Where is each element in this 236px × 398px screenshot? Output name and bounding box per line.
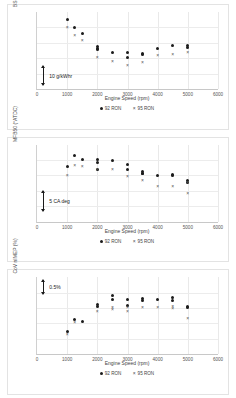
arrow-up-icon [41, 190, 45, 193]
data-point-92ron [171, 299, 174, 302]
x-axis-label: Engine Speed (rpm) [36, 95, 218, 101]
data-point-95ron [156, 54, 159, 57]
data-point-95ron [126, 64, 129, 67]
gridline-vertical [67, 277, 68, 354]
gridline-vertical [97, 145, 98, 222]
arrow-down-icon [41, 292, 45, 295]
data-point-95ron [66, 26, 69, 29]
data-point-95ron [156, 185, 159, 188]
legend-mfb50: 92 RON ×95 RON [36, 239, 218, 244]
data-point-95ron [171, 307, 174, 310]
filled-circle-icon [100, 107, 103, 110]
legend-label: 95 RON [138, 106, 155, 111]
data-point-92ron [111, 294, 114, 297]
data-point-92ron [73, 154, 76, 157]
data-point-92ron [141, 53, 144, 56]
filled-circle-icon [100, 372, 103, 375]
cross-icon: × [133, 240, 136, 243]
data-point-92ron [141, 299, 144, 302]
y-axis-label: BSFC (g/kWh) [12, 0, 18, 28]
data-point-95ron [186, 192, 189, 195]
scale-bar-line [43, 191, 44, 211]
data-point-95ron [111, 168, 114, 171]
data-point-95ron [141, 179, 144, 182]
arrow-down-icon [41, 209, 45, 212]
plot-area-bsfc: 010002000300040005000600010 g/kWhr [36, 12, 218, 90]
x-axis-label: Engine Speed (rpm) [36, 360, 218, 366]
data-point-95ron [96, 168, 99, 171]
gridline-horizontal [37, 339, 218, 340]
data-point-95ron [186, 317, 189, 320]
legend-label: 95 RON [138, 239, 155, 244]
arrow-down-icon [41, 83, 45, 86]
data-point-92ron [111, 51, 114, 54]
data-point-92ron [171, 174, 174, 177]
legend-item-92ron: 92 RON [100, 106, 122, 111]
gridline-vertical [218, 12, 219, 89]
legend-item-95ron: ×95 RON [133, 106, 155, 111]
scale-bar-label: 10 g/kWhr [49, 73, 72, 79]
gridline-horizontal [37, 43, 218, 44]
data-point-92ron [111, 159, 114, 162]
gridline-vertical [128, 277, 129, 354]
data-point-92ron [126, 163, 129, 166]
data-point-95ron [73, 164, 76, 167]
data-point-95ron [141, 306, 144, 309]
data-point-95ron [96, 56, 99, 59]
legend-item-92ron: 92 RON [100, 371, 122, 376]
legend-label: 92 RON [105, 106, 122, 111]
chart-panel-mfb50: MFB50 (°ATDC) 01000200030004000500060005… [0, 133, 236, 266]
gridline-vertical [218, 277, 219, 354]
data-point-92ron [156, 174, 159, 177]
y-axis-label: CoV nIMEP (%) [12, 219, 18, 293]
y-axis-label: MFB50 (°ATDC) [12, 87, 18, 161]
data-point-92ron [96, 161, 99, 164]
legend-bsfc: 92 RON ×95 RON [36, 106, 218, 111]
data-point-92ron [126, 298, 129, 301]
cross-icon: × [133, 372, 136, 375]
scale-bar-annotation: 10 g/kWhr [43, 66, 44, 85]
data-point-92ron [66, 18, 69, 21]
gridline-vertical [97, 277, 98, 354]
data-point-95ron [111, 60, 114, 63]
gridline-vertical [158, 12, 159, 89]
scale-bar-annotation: 5 CA deg [43, 191, 44, 211]
filled-circle-icon [100, 240, 103, 243]
gridline-horizontal [37, 206, 218, 207]
data-point-95ron [126, 175, 129, 178]
legend-item-92ron: 92 RON [100, 239, 122, 244]
data-point-92ron [81, 158, 84, 161]
data-point-95ron [81, 39, 84, 42]
scale-bar-annotation: 0.5% [43, 280, 44, 294]
y-axis-label-wrap: CoV nIMEP (%) [15, 279, 25, 353]
legend-label: 92 RON [105, 239, 122, 244]
data-point-92ron [156, 298, 159, 301]
data-point-95ron [171, 53, 174, 56]
data-point-92ron [171, 44, 174, 47]
figure-root: BSFC (g/kWh) 010002000300040005000600010… [0, 0, 236, 398]
y-axis-label-wrap: MFB50 (°ATDC) [15, 147, 25, 221]
legend-cov-nimep: 92 RON ×95 RON [36, 371, 218, 376]
data-point-92ron [111, 298, 114, 301]
data-point-92ron [66, 165, 69, 168]
data-point-95ron [81, 165, 84, 168]
data-point-92ron [73, 26, 76, 29]
chart-panel-cov-nimep: CoV nIMEP (%) 01000200030004000500060000… [0, 265, 236, 398]
gridline-vertical [128, 145, 129, 222]
arrow-up-icon [41, 279, 45, 282]
gridline-horizontal [37, 27, 218, 28]
plot-area-mfb50: 01000200030004000500060005 CA deg [36, 145, 218, 223]
data-point-95ron [141, 61, 144, 64]
gridline-vertical [67, 145, 68, 222]
data-point-92ron [81, 32, 84, 35]
data-point-95ron [111, 308, 114, 311]
data-point-95ron [66, 174, 69, 177]
data-point-95ron [171, 185, 174, 188]
legend-item-95ron: ×95 RON [133, 371, 155, 376]
gridline-horizontal [37, 160, 218, 161]
data-point-95ron [66, 333, 69, 336]
x-axis-label: Engine Speed (rpm) [36, 228, 218, 234]
legend-label: 95 RON [138, 371, 155, 376]
gridline-vertical [158, 277, 159, 354]
data-point-95ron [156, 306, 159, 309]
